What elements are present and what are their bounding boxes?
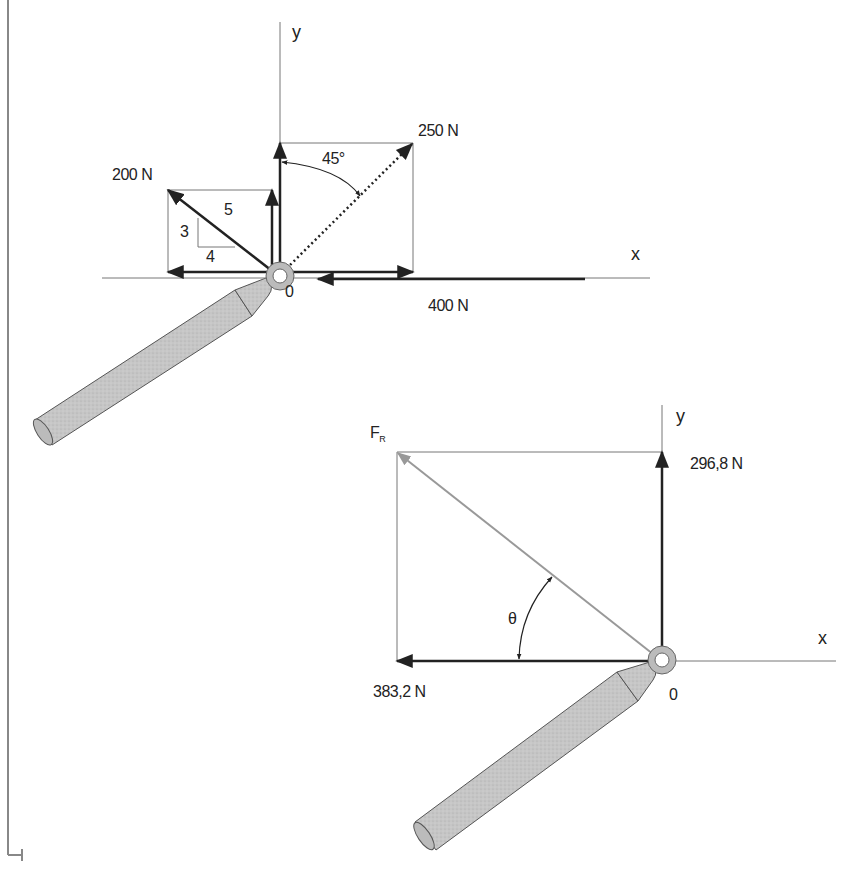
frame-bracket: [8, 0, 22, 861]
force-250N-label: 250 N: [418, 122, 458, 140]
resultant-arrow: [398, 453, 658, 658]
theta-label: θ: [508, 610, 516, 628]
handle-bottom: [410, 662, 656, 853]
handle-top: [30, 278, 272, 448]
force-250N-arrow: [283, 144, 412, 272]
fx-label: 383,2 N: [373, 683, 426, 701]
x-axis-label-top: x: [631, 244, 640, 265]
resultant-label: FR: [370, 424, 385, 444]
x-axis-label-bottom: x: [818, 628, 827, 649]
y-axis-label-top: y: [292, 22, 301, 43]
origin-label-top: 0: [285, 283, 293, 301]
force-200N-label: 200 N: [112, 166, 152, 184]
slope-hyp-label: 5: [224, 201, 232, 219]
resultant-label-main: F: [370, 424, 379, 441]
angle-arc-45: [282, 162, 360, 196]
resultant-label-sub: R: [379, 434, 385, 444]
angle-45-label: 45°: [322, 150, 345, 168]
force-400N-label: 400 N: [428, 297, 468, 315]
fy-label: 296,8 N: [690, 455, 743, 473]
y-axis-label-bottom: y: [676, 406, 685, 427]
origin-label-bottom: 0: [669, 686, 677, 704]
slope-rise-label: 3: [180, 223, 188, 241]
bottom-diagram: [397, 405, 836, 853]
slope-run-label: 4: [206, 248, 214, 266]
top-diagram: [30, 22, 650, 448]
angle-arc-theta: [519, 577, 552, 659]
